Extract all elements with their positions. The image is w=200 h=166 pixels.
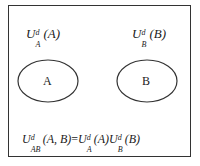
label-b-arg: (B) bbox=[149, 26, 166, 41]
label-a-sub: A bbox=[35, 41, 40, 49]
label-b-sup: d bbox=[141, 29, 145, 37]
formula-lhs-base: U bbox=[22, 132, 31, 146]
formula-rhs2-arg: (B) bbox=[125, 132, 140, 146]
label-b: UdB(B) bbox=[132, 27, 166, 40]
label-a-arg: (A) bbox=[43, 26, 60, 41]
formula-rhs1-arg: (A) bbox=[94, 132, 109, 146]
label-b-sub: B bbox=[141, 41, 146, 49]
label-a-sup: d bbox=[35, 29, 39, 37]
label-a: UdA(A) bbox=[26, 27, 60, 40]
ellipse-a-label: A bbox=[43, 75, 52, 87]
label-a-base: U bbox=[26, 26, 35, 41]
formula-rhs1-base: U bbox=[78, 132, 87, 146]
label-b-base: U bbox=[132, 26, 141, 41]
formula-rhs2-base: U bbox=[109, 132, 118, 146]
formula-lhs-arg: (A, B) bbox=[43, 132, 72, 146]
formula-rhs1-sup: d bbox=[87, 134, 91, 142]
formula-lhs-sup: d bbox=[31, 134, 35, 142]
formula-rhs1-sub: A bbox=[87, 146, 92, 154]
formula: UdAB(A, B)=UdA(A)UdB(B) bbox=[22, 133, 140, 145]
formula-lhs-sub: AB bbox=[31, 146, 41, 154]
formula-rhs2-sub: B bbox=[118, 146, 123, 154]
formula-rhs2-sup: d bbox=[118, 134, 122, 142]
ellipse-b-label: B bbox=[142, 75, 150, 87]
